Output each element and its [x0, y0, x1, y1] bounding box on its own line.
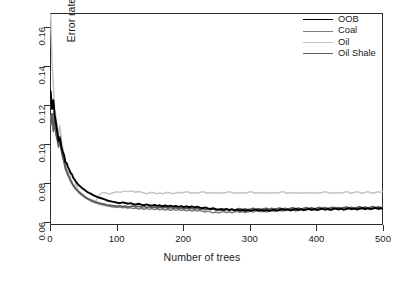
- x-axis-tick-label: 100: [109, 234, 125, 244]
- legend-item: Oil Shale: [303, 48, 387, 59]
- y-axis-title: Error rate: [6, 13, 20, 225]
- y-axis-tick-label: 0.06: [36, 222, 46, 241]
- legend-swatch-line: [303, 31, 333, 32]
- x-axis-tick: [183, 225, 184, 231]
- x-axis-tick: [250, 225, 251, 231]
- legend: OOBCoalOilOil Shale: [303, 14, 387, 60]
- x-axis-tick: [383, 225, 384, 231]
- legend-swatch-line: [303, 53, 333, 54]
- series-line: [51, 114, 383, 210]
- x-axis-tick: [117, 225, 118, 231]
- y-axis-tick-label: 0.08: [36, 183, 46, 202]
- figure-canvas: 0.060.080.100.120.140.16 010020030040050…: [0, 0, 404, 281]
- legend-swatch-line: [303, 19, 333, 20]
- legend-item: Coal: [303, 25, 387, 36]
- x-axis-tick-label: 0: [47, 234, 52, 244]
- legend-swatch-line: [303, 42, 333, 43]
- x-axis-tick-label: 200: [175, 234, 191, 244]
- legend-item: OOB: [303, 14, 387, 25]
- x-axis-tick-label: 300: [242, 234, 258, 244]
- y-axis-tick-label: 0.14: [36, 66, 46, 85]
- x-axis-tick: [50, 225, 51, 231]
- x-axis-tick-label: 500: [375, 234, 391, 244]
- y-axis-title-text: Error rate: [65, 0, 79, 126]
- legend-item: Oil: [303, 37, 387, 48]
- x-axis-title-text: Number of trees: [0, 251, 404, 263]
- y-axis-tick-label: 0.10: [36, 144, 46, 163]
- x-axis-tick-label: 400: [308, 234, 324, 244]
- y-axis-tick-label: 0.16: [36, 27, 46, 46]
- legend-item-label: Oil Shale: [338, 49, 376, 58]
- legend-item-label: OOB: [338, 15, 359, 24]
- x-axis-tick: [316, 225, 317, 231]
- legend-item-label: Oil: [338, 38, 349, 47]
- legend-item-label: Coal: [338, 26, 357, 35]
- y-axis-tick-label: 0.12: [36, 105, 46, 124]
